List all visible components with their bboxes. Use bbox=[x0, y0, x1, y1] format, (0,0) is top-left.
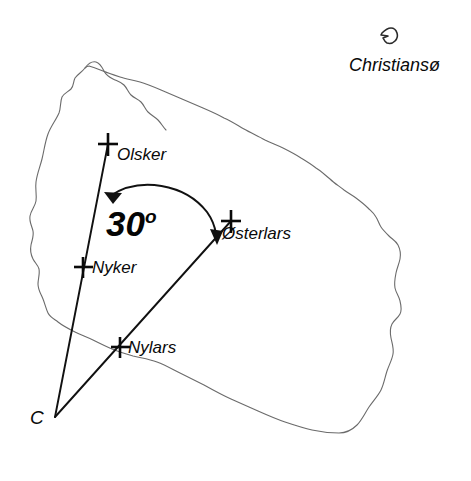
angle-label-30-degrees: 30o bbox=[106, 206, 157, 241]
christianso-islet-shape bbox=[381, 28, 397, 43]
bornholm-angle-map: Olsker Østerlars Nyker Nylars C 30o Chri… bbox=[0, 0, 471, 481]
cross-marker-nyker bbox=[74, 257, 93, 278]
bornholm-coastline bbox=[30, 66, 401, 433]
place-label-olsker: Olsker bbox=[117, 146, 166, 163]
islet-label-christianso: Christiansø bbox=[349, 56, 440, 74]
place-label-nyker: Nyker bbox=[92, 259, 136, 276]
place-label-osterlars: Østerlars bbox=[222, 225, 291, 242]
angle-arrow-head-left bbox=[104, 192, 122, 204]
angle-value: 30 bbox=[106, 204, 145, 243]
degree-symbol: o bbox=[145, 206, 157, 227]
coastline-northwest-detail bbox=[85, 62, 166, 130]
place-label-nylars: Nylars bbox=[128, 339, 176, 356]
cross-marker-olsker bbox=[98, 133, 118, 156]
vertex-label-c: C bbox=[30, 408, 44, 427]
ray-c-to-osterlars bbox=[55, 221, 231, 417]
ray-c-to-olsker bbox=[55, 144, 108, 417]
